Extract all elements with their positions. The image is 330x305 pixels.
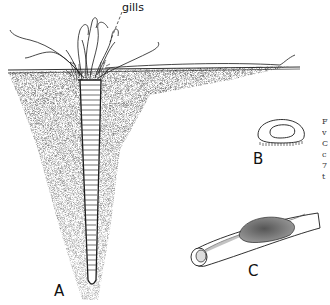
caption-fragment: t [322,171,330,182]
cut-off-caption: F v C c 7 t [322,116,330,182]
panel-c-tube-with-worm [191,213,320,266]
caption-fragment: v [322,127,330,138]
panel-b-cross-section [258,120,304,146]
caption-fragment: c [322,149,330,160]
label-gills: gills [122,1,144,14]
caption-fragment: 7 [322,160,330,171]
label-panel-c: C [248,262,258,280]
label-panel-b: B [253,150,263,168]
caption-fragment: F [322,116,330,127]
gills-pointer-line [110,12,122,42]
illustration-canvas [0,0,330,305]
feeding-tentacle-right [105,55,295,68]
caption-fragment: C [322,138,330,149]
label-panel-a: A [54,282,64,300]
